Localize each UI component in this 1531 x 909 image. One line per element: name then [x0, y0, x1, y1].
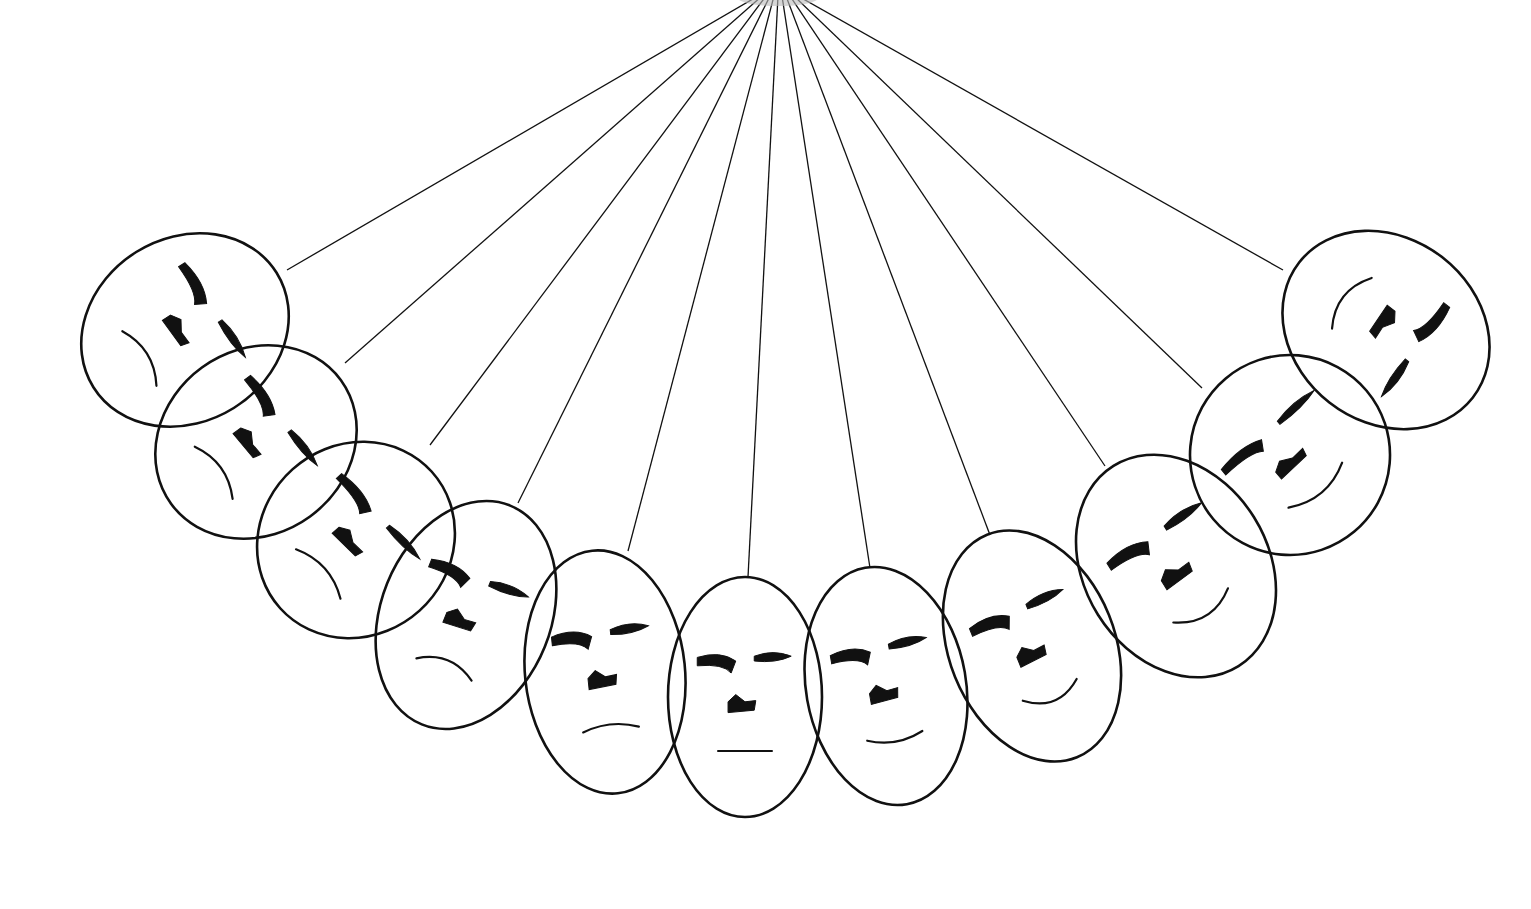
mouth-frown: [296, 544, 347, 599]
right-eyebrow-icon: [1162, 500, 1204, 531]
right-eyebrow-icon: [1378, 359, 1412, 399]
strings-group: [287, 0, 1283, 577]
left-eyebrow-icon: [332, 472, 375, 518]
head-outline: [217, 401, 496, 679]
left-eyebrow-icon: [173, 261, 211, 309]
nose-icon: [1367, 305, 1400, 341]
head-outline: [1149, 314, 1431, 596]
right-eyebrow-icon: [218, 318, 248, 360]
left-eyebrow-icon: [1410, 299, 1452, 346]
left-eyebrow-icon: [551, 630, 593, 653]
nose-icon: [332, 523, 366, 559]
right-eyebrow-icon: [488, 578, 529, 601]
left-eyebrow-icon: [1105, 536, 1154, 576]
head-outline: [343, 474, 589, 756]
string-11: [798, 0, 1283, 270]
face-9: [1035, 417, 1316, 715]
mouth-slight-smile: [867, 731, 923, 747]
string-3: [430, 0, 766, 445]
right-eyebrow-icon: [1025, 586, 1065, 609]
left-eyebrow-icon: [1220, 436, 1268, 480]
face-4: [343, 474, 589, 756]
head-outline: [45, 195, 326, 466]
string-9: [790, 0, 1105, 466]
mouth-frown: [195, 442, 240, 499]
mouth-smile: [1173, 588, 1234, 632]
nose-icon: [1158, 557, 1195, 590]
faces-group: [45, 190, 1530, 818]
string-2: [345, 0, 762, 363]
nose-icon: [1014, 639, 1048, 667]
face-6: [668, 577, 822, 817]
mouth-frown: [416, 649, 475, 680]
nose-icon: [443, 606, 478, 634]
nose-icon: [868, 682, 899, 705]
right-eyebrow-icon: [1275, 388, 1317, 425]
string-6: [748, 0, 778, 577]
left-eyebrow-icon: [830, 646, 873, 671]
pivot-point: [738, 0, 818, 6]
left-eyebrow-icon: [697, 655, 736, 673]
mouth-frown: [122, 326, 164, 385]
right-eyebrow-icon: [754, 653, 791, 662]
string-1: [287, 0, 758, 270]
head-outline: [1035, 417, 1316, 715]
mouth-smile: [1324, 271, 1372, 328]
mouth-smile: [1023, 679, 1081, 712]
string-8: [786, 0, 990, 535]
string-4: [518, 0, 770, 503]
left-eyebrow-icon: [239, 374, 279, 421]
right-eyebrow-icon: [888, 634, 927, 650]
nose-icon: [728, 695, 756, 713]
pendulum-faces-illustration: [0, 0, 1531, 909]
string-10: [794, 0, 1202, 388]
mouth-smile: [1289, 463, 1349, 516]
face-11: [1243, 190, 1530, 470]
nose-icon: [233, 424, 265, 460]
face-10: [1149, 314, 1431, 596]
face-3: [217, 401, 496, 679]
face-8: [910, 504, 1154, 789]
right-eyebrow-icon: [288, 428, 320, 468]
head-outline: [910, 504, 1154, 789]
nose-icon: [1272, 444, 1309, 479]
head-outline: [1243, 190, 1530, 470]
face-1: [45, 195, 326, 466]
nose-icon: [162, 312, 193, 349]
head-outline: [786, 554, 985, 818]
mouth-slight-frown: [583, 721, 639, 732]
nose-icon: [587, 668, 618, 689]
head-outline: [668, 577, 822, 817]
right-eyebrow-icon: [386, 523, 422, 562]
right-eyebrow-icon: [610, 622, 649, 635]
face-7: [786, 554, 985, 818]
left-eyebrow-icon: [426, 557, 472, 590]
left-eyebrow-icon: [968, 610, 1013, 643]
string-7: [782, 0, 870, 568]
